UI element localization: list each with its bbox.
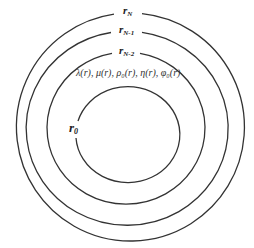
- layer-boundary-rN-1: [26, 32, 228, 225]
- label-rN-2: rN-2: [119, 45, 134, 58]
- label-rN: rN: [123, 5, 132, 18]
- label-rN-2-sub: N-2: [123, 50, 134, 58]
- label-r0: r0: [69, 121, 78, 136]
- material-properties-label: λ(r), μ(r), ρ₀(r), η(r), φ₀(r): [76, 68, 180, 78]
- concentric-layers-diagram: [0, 0, 254, 248]
- layer-boundary-r0: [76, 87, 180, 183]
- label-rN-1-sub: N-1: [123, 29, 134, 37]
- label-r0-sub: 0: [74, 127, 78, 136]
- label-rN-sub: N: [127, 10, 132, 18]
- label-rN-1: rN-1: [119, 24, 134, 37]
